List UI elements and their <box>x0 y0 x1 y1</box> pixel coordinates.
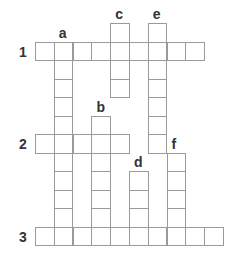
crossword-cell[interactable] <box>167 190 187 210</box>
crossword-cell[interactable] <box>129 171 149 191</box>
crossword-cell[interactable] <box>91 42 111 62</box>
crossword-cell[interactable] <box>54 208 74 228</box>
down-clue-letter: d <box>134 155 143 169</box>
crossword-cell[interactable] <box>35 134 55 154</box>
crossword-cell[interactable] <box>35 42 55 62</box>
crossword-cell[interactable] <box>54 60 74 80</box>
crossword-cell[interactable] <box>167 153 187 173</box>
crossword-cell[interactable] <box>204 227 224 247</box>
crossword-cell[interactable] <box>148 23 168 43</box>
down-clue-letter: c <box>115 7 123 21</box>
crossword-cell[interactable] <box>54 116 74 136</box>
crossword-cell[interactable] <box>167 171 187 191</box>
crossword-cell[interactable] <box>54 153 74 173</box>
crossword-cell[interactable] <box>54 227 74 247</box>
crossword-cell[interactable] <box>54 171 74 191</box>
crossword-cell[interactable] <box>54 79 74 99</box>
crossword-cell[interactable] <box>110 60 130 80</box>
crossword-cell[interactable] <box>54 190 74 210</box>
crossword-cell[interactable] <box>54 97 74 117</box>
crossword-cell[interactable] <box>110 227 130 247</box>
crossword-cell[interactable] <box>73 42 93 62</box>
crossword-cell[interactable] <box>148 227 168 247</box>
crossword-cell[interactable] <box>35 227 55 247</box>
crossword-cell[interactable] <box>91 227 111 247</box>
crossword-cell[interactable] <box>148 79 168 99</box>
crossword-cell[interactable] <box>91 116 111 136</box>
crossword-cell[interactable] <box>73 134 93 154</box>
crossword-cell[interactable] <box>148 60 168 80</box>
down-clue-letter: b <box>96 100 105 114</box>
crossword-cell[interactable] <box>73 227 93 247</box>
crossword-cell[interactable] <box>91 153 111 173</box>
crossword-cell[interactable] <box>148 97 168 117</box>
crossword-cell[interactable] <box>167 208 187 228</box>
across-clue-number: 3 <box>19 230 27 244</box>
crossword-cell[interactable] <box>110 42 130 62</box>
crossword-grid: 123abcdef <box>0 0 235 260</box>
crossword-cell[interactable] <box>110 134 130 154</box>
crossword-cell[interactable] <box>91 190 111 210</box>
down-clue-letter: f <box>172 137 177 151</box>
crossword-cell[interactable] <box>129 227 149 247</box>
across-clue-number: 2 <box>19 137 27 151</box>
crossword-cell[interactable] <box>167 42 187 62</box>
across-clue-number: 1 <box>19 45 27 59</box>
crossword-cell[interactable] <box>167 227 187 247</box>
crossword-cell[interactable] <box>91 134 111 154</box>
crossword-cell[interactable] <box>185 227 205 247</box>
crossword-cell[interactable] <box>129 42 149 62</box>
crossword-cell[interactable] <box>148 42 168 62</box>
crossword-cell[interactable] <box>54 42 74 62</box>
down-clue-letter: e <box>153 7 161 21</box>
crossword-cell[interactable] <box>110 23 130 43</box>
crossword-cell[interactable] <box>129 208 149 228</box>
down-clue-letter: a <box>59 26 67 40</box>
crossword-cell[interactable] <box>185 42 205 62</box>
crossword-cell[interactable] <box>148 116 168 136</box>
crossword-cell[interactable] <box>91 171 111 191</box>
crossword-cell[interactable] <box>148 134 168 154</box>
crossword-cell[interactable] <box>54 134 74 154</box>
crossword-cell[interactable] <box>91 208 111 228</box>
crossword-cell[interactable] <box>110 79 130 99</box>
crossword-cell[interactable] <box>129 190 149 210</box>
